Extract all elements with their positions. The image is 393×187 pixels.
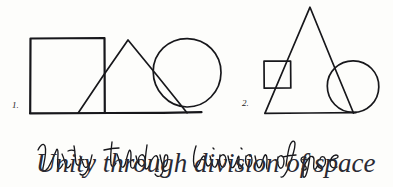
figure-2-baseline — [265, 113, 356, 114]
figure-2-circle — [327, 61, 379, 113]
figure-1-circle — [153, 39, 221, 107]
worksheet-sheet: 1. 2. Unity — [0, 0, 393, 187]
figure-1-group: 1. — [12, 38, 221, 113]
caption-text: Unity through division of space — [36, 148, 375, 178]
figure-2-number-label: 2. — [242, 98, 249, 108]
design-exercise-drawing: 1. 2. Unity — [0, 0, 393, 187]
figure-2-triangle — [265, 7, 354, 113]
figure-1-number-label: 1. — [12, 100, 19, 110]
handwritten-caption: Unity through division of space — [36, 141, 375, 178]
figure-1-square — [30, 38, 105, 113]
figure-1-baseline — [30, 112, 202, 113]
figure-2-group: 2. — [242, 7, 379, 113]
